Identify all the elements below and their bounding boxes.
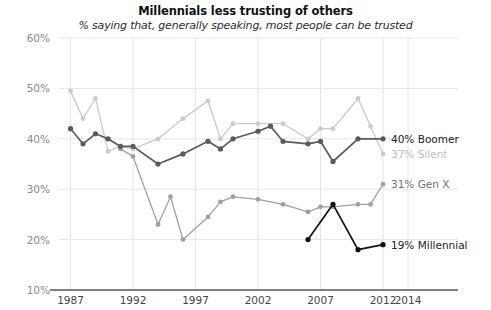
data-point [368,202,373,207]
data-point [168,194,173,199]
x-axis-tick-label: 1992 [108,294,158,306]
data-point [381,182,386,187]
data-point [305,141,310,146]
y-axis-tick-label: 40% [10,133,50,145]
data-point [181,116,186,121]
data-point [106,149,111,154]
x-axis-tick-label: 2007 [296,294,346,306]
data-point [218,146,223,151]
plot-area: 10%20%30%40%50%60%1987199219972002200720… [0,0,491,310]
data-point [130,144,135,149]
data-point [206,215,211,220]
y-axis-tick-label: 60% [10,32,50,44]
series-end-label-boomer: 40% Boomer [391,133,459,145]
y-axis-tick-label: 20% [10,234,50,246]
data-point [181,237,186,242]
data-point [268,124,273,129]
data-point [206,99,211,104]
data-point [156,222,161,227]
data-point [305,237,310,242]
series-end-label-gen-x: 31% Gen X [391,178,449,190]
data-point [256,197,261,202]
data-point [105,136,110,141]
series-end-label-silent: 37% Silent [391,148,447,160]
data-point [330,159,335,164]
x-axis-tick-label: 1987 [46,294,96,306]
data-point [68,89,73,94]
data-point [280,139,285,144]
x-axis-tick-label: 2014 [383,294,433,306]
data-point [281,121,286,126]
data-point [318,139,323,144]
data-point [93,131,98,136]
data-point [306,136,311,141]
data-point [218,199,223,204]
y-axis-tick-label: 30% [10,183,50,195]
data-point [256,121,261,126]
x-axis-tick-label: 2002 [233,294,283,306]
data-point [80,141,85,146]
series-end-label-millennial: 19% Millennial [391,239,468,251]
data-point [218,136,223,141]
data-point [93,96,98,101]
data-point [355,247,360,252]
data-point [180,151,185,156]
data-point [68,126,73,131]
x-axis-tick-label: 1997 [171,294,221,306]
data-point [318,126,323,131]
data-point [356,96,361,101]
data-point [255,129,260,134]
data-point [81,116,86,121]
data-point [118,144,123,149]
series-line-millennial [308,204,383,249]
data-point [380,136,385,141]
data-point [330,202,335,207]
data-point [306,209,311,214]
data-point [381,152,386,157]
data-point [380,242,385,247]
data-point [355,136,360,141]
data-point [230,136,235,141]
data-point [156,136,161,141]
y-axis-tick-label: 50% [10,82,50,94]
y-axis-tick-label: 10% [10,284,50,296]
data-point [205,139,210,144]
data-point [368,124,373,129]
data-point [155,161,160,166]
data-point [231,121,236,126]
data-point [231,194,236,199]
data-point [331,126,336,131]
data-point [281,202,286,207]
data-point [356,202,361,207]
data-point [318,204,323,209]
chart-container: Millennials less trusting of others % sa… [0,0,491,310]
data-point [131,154,136,159]
